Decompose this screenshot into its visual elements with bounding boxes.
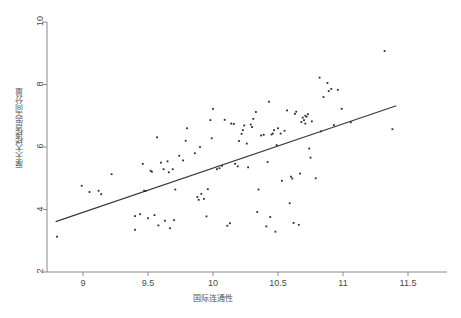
data-point bbox=[164, 220, 166, 222]
data-point bbox=[185, 140, 187, 142]
x-axis-ticks bbox=[83, 272, 408, 276]
data-point bbox=[281, 180, 283, 182]
data-point bbox=[242, 129, 244, 131]
data-point bbox=[310, 157, 312, 159]
data-point bbox=[154, 214, 156, 216]
data-point bbox=[169, 227, 171, 229]
data-point bbox=[277, 127, 279, 129]
data-point bbox=[226, 225, 228, 227]
data-point bbox=[291, 178, 293, 180]
data-point bbox=[280, 133, 282, 135]
data-point bbox=[307, 113, 309, 115]
data-point bbox=[56, 236, 58, 238]
data-point bbox=[206, 215, 208, 217]
data-point bbox=[172, 168, 174, 170]
data-point bbox=[139, 213, 141, 215]
data-point bbox=[145, 190, 147, 192]
y-tick-label: 2 bbox=[35, 264, 45, 278]
data-point bbox=[330, 88, 332, 90]
data-point bbox=[199, 146, 201, 148]
data-point bbox=[134, 229, 136, 231]
data-point bbox=[260, 135, 262, 137]
axis-lines bbox=[47, 22, 447, 272]
y-tick-label: 8 bbox=[35, 77, 45, 91]
data-point bbox=[100, 193, 102, 195]
data-point bbox=[160, 162, 162, 164]
data-point bbox=[81, 185, 83, 187]
data-point bbox=[163, 168, 165, 170]
data-point bbox=[211, 137, 213, 139]
data-point bbox=[255, 111, 257, 113]
y-tick-label: 6 bbox=[35, 139, 45, 153]
data-point bbox=[267, 161, 269, 163]
data-point bbox=[168, 171, 170, 173]
data-point bbox=[134, 215, 136, 217]
data-point bbox=[350, 121, 352, 123]
data-point bbox=[194, 152, 196, 154]
plot-canvas bbox=[0, 0, 461, 318]
data-point bbox=[167, 160, 169, 162]
data-point bbox=[173, 219, 175, 221]
data-point bbox=[212, 108, 214, 110]
data-point bbox=[186, 127, 188, 129]
data-point bbox=[301, 121, 303, 123]
data-point bbox=[229, 222, 231, 224]
data-point bbox=[311, 120, 313, 122]
data-point bbox=[151, 171, 153, 173]
y-tick-label: 10 bbox=[35, 14, 45, 28]
data-point bbox=[265, 225, 267, 227]
data-point bbox=[290, 176, 292, 178]
data-point bbox=[327, 82, 329, 84]
data-point bbox=[275, 231, 277, 233]
data-point bbox=[384, 50, 386, 52]
data-point bbox=[230, 123, 232, 125]
data-point bbox=[174, 189, 176, 191]
data-point bbox=[233, 123, 235, 125]
data-point bbox=[306, 116, 308, 118]
data-point bbox=[142, 163, 144, 165]
data-point bbox=[273, 129, 275, 131]
data-point bbox=[286, 110, 288, 112]
scatter-plot-figure: 99.51010.51111.5 246810 国际连通性 摩天大楼楼层空间分量 bbox=[0, 0, 461, 318]
data-point bbox=[269, 216, 271, 218]
data-point bbox=[247, 166, 249, 168]
data-point bbox=[207, 188, 209, 190]
data-point bbox=[284, 130, 286, 132]
data-point bbox=[158, 225, 160, 227]
x-tick-label: 10.5 bbox=[269, 278, 287, 288]
data-point bbox=[98, 190, 100, 192]
data-point bbox=[295, 111, 297, 113]
data-point bbox=[237, 165, 239, 167]
x-axis-title: 国际连通性 bbox=[193, 292, 233, 303]
data-point bbox=[246, 143, 248, 145]
data-point bbox=[182, 160, 184, 162]
data-point bbox=[224, 119, 226, 121]
data-point bbox=[304, 123, 306, 125]
data-point bbox=[268, 101, 270, 103]
data-point bbox=[238, 140, 240, 142]
data-point bbox=[147, 217, 149, 219]
data-point bbox=[328, 90, 330, 92]
data-point bbox=[315, 177, 317, 179]
data-point bbox=[263, 134, 265, 136]
x-tick-label: 10 bbox=[208, 278, 218, 288]
y-axis-title: 摩天大楼楼层空间分量 bbox=[14, 88, 25, 168]
data-point bbox=[203, 198, 205, 200]
data-point bbox=[251, 126, 253, 128]
data-point bbox=[243, 125, 245, 127]
data-point bbox=[221, 165, 223, 167]
data-point bbox=[234, 163, 236, 165]
data-point bbox=[156, 136, 158, 138]
data-point bbox=[89, 191, 91, 193]
data-point bbox=[320, 130, 322, 132]
fit-line bbox=[56, 106, 397, 222]
regression-line bbox=[56, 106, 397, 222]
data-point bbox=[308, 148, 310, 150]
data-point bbox=[337, 89, 339, 91]
x-tick-label: 11 bbox=[338, 278, 347, 288]
data-point bbox=[303, 119, 305, 121]
data-point bbox=[293, 222, 295, 224]
y-tick-label: 4 bbox=[35, 202, 45, 216]
data-point bbox=[392, 128, 394, 130]
data-point bbox=[333, 124, 335, 126]
